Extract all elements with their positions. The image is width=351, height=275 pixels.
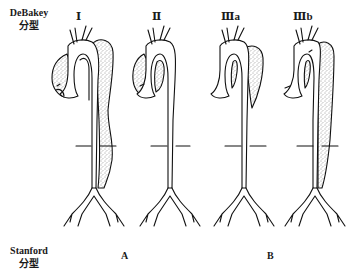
aorta-type-2: [133, 26, 200, 226]
false-lumen-inner-arch: [304, 60, 310, 88]
aorta-wall: [211, 40, 249, 188]
aorta-type-1: [52, 26, 124, 226]
iliac-bifurcation: [64, 188, 124, 226]
aorta-type-3a: [211, 26, 274, 226]
iliac-bifurcation: [140, 188, 200, 226]
aorta-type-3b: [284, 26, 345, 226]
false-lumen-inner-arch: [155, 61, 165, 93]
iliac-bifurcation: [214, 188, 274, 226]
iliac-bifurcation: [285, 188, 345, 226]
aorta-wall: [284, 40, 320, 188]
false-lumen-inner-arch: [231, 60, 237, 88]
aortic-dissection-diagrams: [0, 0, 351, 275]
